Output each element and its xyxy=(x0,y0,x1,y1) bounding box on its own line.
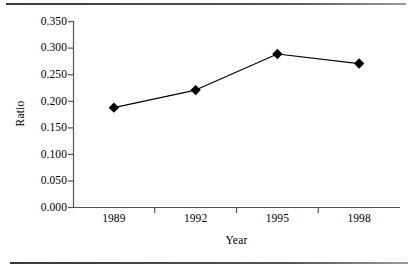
y-tick-label: 0.100 xyxy=(21,149,67,161)
x-tick-label: 1992 xyxy=(155,211,237,229)
y-tick-label: 0.300 xyxy=(21,42,67,54)
data-point-markers xyxy=(109,49,365,113)
y-tick-label: 0.150 xyxy=(21,122,67,134)
y-tick-label: 0.000 xyxy=(21,202,67,214)
data-point-marker xyxy=(109,102,119,112)
x-axis-tick-labels: 1989 1992 1995 1998 xyxy=(73,211,400,229)
data-point-marker xyxy=(272,49,282,59)
y-tick-label: 0.350 xyxy=(21,16,67,28)
x-tick-label: 1995 xyxy=(237,211,319,229)
data-series-line xyxy=(114,54,359,108)
x-axis-title: Year xyxy=(73,234,400,247)
data-point-marker xyxy=(190,85,200,95)
y-tick-label: 0.050 xyxy=(21,175,67,187)
y-tick-label: 0.200 xyxy=(21,96,67,108)
line-chart: 0.000 0.050 0.100 0.150 0.200 0.250 0.30… xyxy=(0,0,418,270)
y-axis-title: Ratio xyxy=(14,64,27,164)
y-tick-marks xyxy=(68,22,74,208)
data-point-marker xyxy=(354,58,364,68)
bottom-horizontal-rule xyxy=(10,262,408,264)
y-tick-label: 0.250 xyxy=(21,69,67,81)
x-tick-label: 1989 xyxy=(73,211,155,229)
x-tick-label: 1998 xyxy=(318,211,400,229)
